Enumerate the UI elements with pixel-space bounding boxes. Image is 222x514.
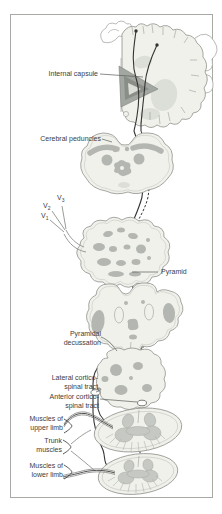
trunk-nerve-connectors <box>71 430 94 470</box>
muscles-lower-limb-label: Muscles oflower limb <box>11 461 63 479</box>
muscle-label-braces <box>63 419 72 479</box>
trunk-brace <box>63 440 71 454</box>
internal-capsule-label: Internal capsule <box>22 69 98 78</box>
trigeminal-v1-label: V1 <box>41 212 48 221</box>
red-nucleus-left <box>102 155 113 166</box>
pyramidal-decussation-label: Pyramidaldecussation <box>28 329 101 347</box>
trigeminal-v2-label: V2 <box>43 202 50 211</box>
anterior-tract-marker-ring <box>138 400 147 406</box>
trigeminal-v3-label: V3 <box>57 194 64 203</box>
red-nucleus-right <box>134 154 145 165</box>
brain-coronal-section <box>101 21 217 128</box>
pyramid-label: Pyramid <box>161 267 201 276</box>
trunk-muscles-label: Trunkmuscles <box>26 436 62 454</box>
cervical-cord-section <box>92 403 185 456</box>
lateral-corticospinal-tract-label: Lateral cortico-spinal tract <box>17 373 98 391</box>
lumbar-cord-section <box>96 449 180 498</box>
trigeminal-nerve <box>50 206 86 252</box>
basal-structure-circle <box>123 111 128 116</box>
anterior-corticospinal-tract-label: Anterior cortico-spinal tract <box>16 392 99 410</box>
decussation-section <box>91 348 165 410</box>
pons-section <box>50 206 170 287</box>
cerebral-peduncles-label: Cerebral peduncles <box>10 134 101 143</box>
muscles-upper-limb-label: Muscles ofupper limb <box>11 414 63 432</box>
